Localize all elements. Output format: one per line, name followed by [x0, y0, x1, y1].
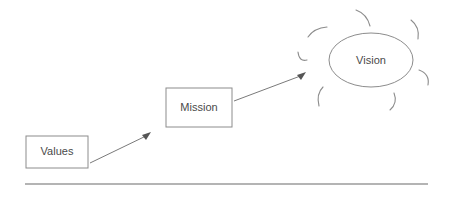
- sun-ray-upper-right-icon: [411, 20, 418, 39]
- diagram-canvas: Vision Mission Values: [0, 0, 451, 200]
- connector-mission-to-vision[interactable]: [234, 70, 306, 104]
- mission-label: Mission: [180, 101, 217, 113]
- connector-mission-vision-hitbox[interactable]: [234, 70, 306, 104]
- sun-ray-lower-right-icon: [390, 93, 395, 110]
- vision-label: Vision: [356, 54, 386, 66]
- sun-ray-top-icon: [356, 10, 370, 26]
- sun-ray-lower-left-icon: [318, 87, 323, 106]
- strategy-diagram: Vision Mission Values: [0, 0, 451, 200]
- sun-ray-upper-left-icon: [308, 27, 327, 37]
- values-label: Values: [41, 145, 74, 157]
- node-vision[interactable]: Vision: [329, 33, 413, 87]
- sun-ray-left-icon: [298, 52, 307, 60]
- connector-values-mission-hitbox[interactable]: [90, 130, 152, 166]
- connector-values-to-mission[interactable]: [90, 130, 152, 166]
- node-mission[interactable]: Mission: [166, 88, 232, 127]
- node-values[interactable]: Values: [26, 136, 88, 168]
- sun-ray-right-icon: [419, 70, 428, 85]
